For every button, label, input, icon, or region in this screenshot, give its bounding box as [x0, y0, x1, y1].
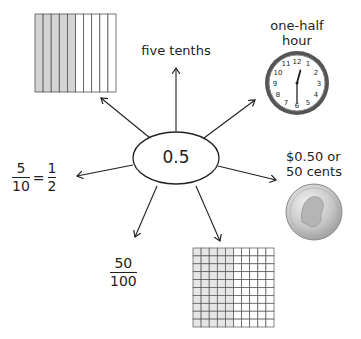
hundredths-cell — [225, 295, 233, 303]
hundredths-cell — [217, 288, 225, 296]
clock-title: one-half hour — [262, 18, 332, 48]
words-label: five tenths — [130, 43, 222, 58]
clock-title-line1: one-half — [262, 18, 332, 33]
hundredths-cell — [217, 303, 225, 311]
hundredths-cell — [201, 272, 209, 280]
numerator: 5 — [16, 161, 25, 176]
hundredths-cell — [209, 311, 217, 319]
clock-numeral: 1 — [306, 60, 310, 68]
hundredths-cell — [193, 272, 201, 280]
hundredths-cell — [250, 295, 258, 303]
hundredths-cell — [201, 295, 209, 303]
hundredths-cell — [217, 248, 225, 256]
hundredths-cell — [209, 280, 217, 288]
hundredths-cell — [193, 319, 201, 327]
fraction-five-tenths: 5 10 — [12, 161, 30, 194]
clock-numeral: 2 — [314, 69, 318, 77]
hundredths-cell — [193, 280, 201, 288]
hundredths-cell — [225, 311, 233, 319]
tenths-column — [84, 14, 92, 92]
hundredths-cell — [266, 264, 274, 272]
tenths-column — [76, 14, 84, 92]
hundredths-cell — [258, 256, 266, 264]
hundredths-cell — [234, 248, 242, 256]
hundredths-cell — [201, 311, 209, 319]
hundredths-cell — [217, 272, 225, 280]
hundredths-cell — [234, 319, 242, 327]
clock-numeral: 5 — [306, 99, 310, 107]
hundredths-cell — [201, 303, 209, 311]
hundredths-cell — [242, 256, 250, 264]
hundredths-cell — [266, 288, 274, 296]
hundredths-cell — [258, 303, 266, 311]
hundredths-cell — [266, 311, 274, 319]
denominator: 2 — [48, 179, 57, 194]
hundredths-cell — [266, 303, 274, 311]
clock-numeral: 7 — [284, 99, 288, 107]
hundredths-cell — [250, 272, 258, 280]
hundredths-cell — [193, 311, 201, 319]
hundredths-cell — [266, 272, 274, 280]
denominator: 100 — [110, 274, 137, 289]
hundredths-cell — [242, 295, 250, 303]
hundredths-cell — [242, 248, 250, 256]
hundredths-cell — [217, 295, 225, 303]
clock-title-line2: hour — [262, 33, 332, 48]
hundredths-cell — [209, 264, 217, 272]
clock-numeral: 11 — [282, 60, 291, 68]
hundredths-cell — [242, 272, 250, 280]
hundredths-cell — [242, 280, 250, 288]
hundredths-cell — [266, 280, 274, 288]
hundredths-cell — [258, 288, 266, 296]
hundredths-cell — [209, 303, 217, 311]
hundredths-cell — [250, 248, 258, 256]
hundredths-cell — [193, 248, 201, 256]
hundredths-cell — [258, 319, 266, 327]
money-line2: 50 cents — [286, 164, 361, 179]
tenths-column — [43, 14, 51, 92]
hundredths-cell — [209, 272, 217, 280]
hundredths-cell — [209, 256, 217, 264]
clock-numeral: 9 — [273, 80, 277, 88]
hundredths-cell — [209, 288, 217, 296]
hundredths-cell — [234, 303, 242, 311]
center-label: 0.5 — [150, 147, 202, 167]
hundredths-cell — [193, 295, 201, 303]
arrow-to-fraction-hundredths — [135, 186, 157, 237]
hundredths-cell — [250, 311, 258, 319]
hundredths-cell — [209, 248, 217, 256]
equals-sign: = — [33, 170, 45, 186]
denominator: 10 — [12, 179, 30, 194]
hundredths-cell — [234, 288, 242, 296]
hundredths-cell — [209, 295, 217, 303]
clock: 121234567891011 — [265, 51, 329, 115]
clock-numeral: 10 — [273, 69, 282, 77]
hundredths-cell — [201, 248, 209, 256]
hundredths-cell — [201, 256, 209, 264]
clock-numeral: 12 — [293, 58, 302, 66]
hundredths-cell — [242, 303, 250, 311]
tenths-column — [108, 14, 116, 92]
hundredths-cell — [225, 248, 233, 256]
hundredths-cell — [217, 319, 225, 327]
hundredths-cell — [258, 295, 266, 303]
hundredths-cell — [242, 319, 250, 327]
hundredths-cell — [250, 288, 258, 296]
money-line1: $0.50 or — [286, 149, 361, 164]
hundredths-cell — [250, 264, 258, 272]
tenths-column — [51, 14, 59, 92]
fraction-hundredths: 50 100 — [110, 253, 137, 289]
tenths-column — [92, 14, 100, 92]
hundredths-cell — [217, 280, 225, 288]
hundredths-cell — [258, 264, 266, 272]
half-dollar-coin — [286, 184, 342, 240]
fraction-one-half: 1 2 — [48, 161, 57, 194]
hundredths-cell — [217, 264, 225, 272]
clock-pivot — [296, 82, 299, 85]
hundredths-cell — [266, 248, 274, 256]
arrow-to-money — [218, 166, 276, 180]
hundredths-cell — [201, 288, 209, 296]
hundredths-cell — [225, 288, 233, 296]
hundredths-cell — [266, 256, 274, 264]
hundredths-cell — [242, 311, 250, 319]
